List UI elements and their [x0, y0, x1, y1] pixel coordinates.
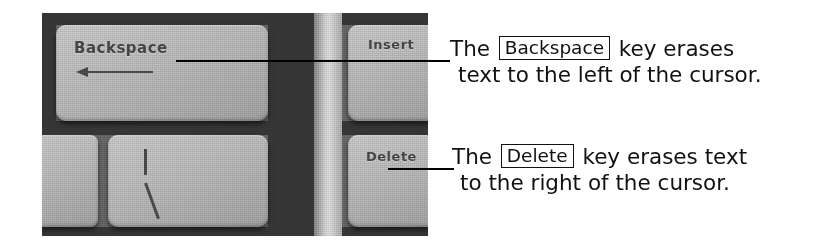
callout-backspace-line-2: text to the left of the cursor.: [450, 62, 761, 88]
keyboard-photo: Backspace Insert Delete: [42, 13, 428, 236]
callout-delete-trail-text: key erases text: [576, 144, 747, 169]
key-bank-separator: [314, 13, 342, 236]
callout-delete-line-2: to the right of the cursor.: [452, 170, 747, 196]
callout-delete-lead-text: The: [452, 144, 499, 169]
leader-line-backspace: [176, 60, 450, 62]
left-arrow-icon: [76, 67, 154, 77]
callout-delete: The Delete key erases text to the right …: [452, 144, 747, 196]
keycap-backslash[interactable]: [108, 135, 268, 227]
callout-backspace: The Backspace key erases text to the lef…: [450, 36, 761, 88]
keycap-insert-label: Insert: [368, 37, 414, 52]
keycap-delete[interactable]: Delete: [348, 135, 428, 227]
keyname-box-delete: Delete: [501, 144, 574, 168]
leader-line-delete: [388, 168, 454, 170]
figure-root: Backspace Insert Delete The Backspace ke…: [0, 0, 829, 247]
keycap-partial-left[interactable]: [42, 135, 98, 227]
backslash-icon: [144, 182, 160, 219]
chassis-bottom-edge: [42, 227, 428, 236]
keycap-delete-label: Delete: [366, 149, 417, 164]
callout-delete-line-1: The Delete key erases text: [452, 144, 747, 170]
keycap-insert[interactable]: Insert: [348, 25, 428, 121]
callout-backspace-line-1: The Backspace key erases: [450, 36, 761, 62]
callout-backspace-lead-text: The: [450, 36, 497, 61]
keyname-box-backspace: Backspace: [499, 36, 610, 60]
keycap-backspace[interactable]: Backspace: [56, 25, 268, 121]
chassis-between-banks: [268, 13, 316, 236]
chassis-middle-gap: [42, 121, 428, 135]
pipe-icon: [144, 149, 147, 175]
keycap-backspace-label: Backspace: [74, 39, 168, 57]
callout-backspace-trail-text: key erases: [612, 36, 734, 61]
chassis-top-edge: [42, 13, 428, 25]
